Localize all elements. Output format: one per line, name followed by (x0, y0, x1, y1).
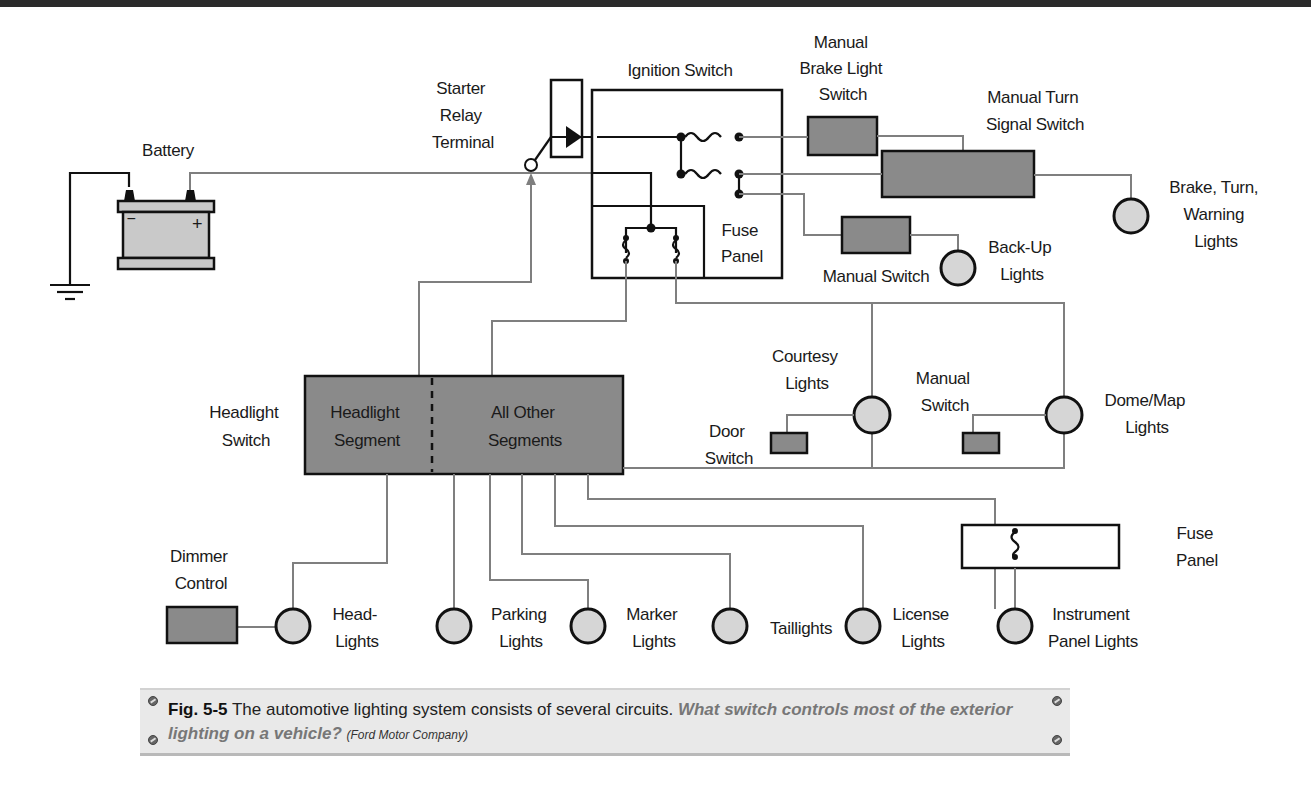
battery-ground (50, 173, 129, 299)
marker-lights-label: Marker Lights (626, 605, 682, 651)
battery-positive-terminal (185, 190, 196, 201)
parking-lights-label: Parking Lights (491, 605, 551, 651)
license-lamp (846, 609, 880, 643)
battery-positive-sign: + (192, 214, 202, 234)
arrow-icon (526, 173, 536, 185)
dome-manual-switch-label: Manual Switch (916, 369, 974, 415)
figure-caption: Fig. 5-5 The automotive lighting system … (140, 688, 1070, 756)
courtesy-lamp (854, 397, 890, 433)
battery-negative-sign: − (126, 210, 135, 227)
dome-map-lamp (1046, 397, 1082, 433)
turn-signal-switch (882, 151, 1034, 197)
backup-manual-switch-label: Manual Switch (823, 267, 930, 286)
figure-number: Fig. 5-5 (168, 700, 228, 719)
headlight-switch (305, 376, 623, 474)
head-lights-label: Head- Lights (332, 605, 381, 651)
instrument-panel-lights-label: Instrument Panel Lights (1048, 605, 1138, 651)
main-feed-wire (190, 173, 597, 190)
relay-terminal-circle (525, 159, 537, 171)
headlight-switch-label: Headlight Switch (209, 403, 283, 450)
turn-signal-switch-label: Manual Turn Signal Switch (986, 88, 1084, 134)
screw-icon (148, 735, 158, 745)
brake-light-switch (808, 117, 877, 155)
dome-map-lights-label: Dome/Map Lights (1104, 391, 1189, 437)
courtesy-lights-label: Courtesy Lights (772, 347, 842, 393)
marker-lights-wire (490, 474, 588, 609)
taillights-wire (522, 474, 730, 609)
dimmer-control-label: Dimmer Control (170, 547, 232, 593)
brake-turn-warning-label: Brake, Turn, Warning Lights (1169, 178, 1262, 251)
headlights-wire (293, 474, 387, 609)
battery-label: Battery (142, 141, 195, 160)
ignition-switch-label: Ignition Switch (627, 61, 732, 80)
license-lights-label: License Lights (893, 605, 954, 651)
starter-relay-label: Starter Relay Terminal (432, 79, 494, 152)
instrument-panel-wire (588, 474, 995, 609)
dome-manual-switch (963, 433, 999, 453)
starter-relay (525, 80, 597, 171)
caption-body: The automotive lighting system consists … (228, 700, 678, 719)
license-lights-wire (555, 474, 863, 609)
battery: − + (118, 190, 214, 269)
door-switch (771, 433, 807, 453)
screw-icon (1052, 735, 1062, 745)
marker-lamp (571, 609, 605, 643)
instrument-panel-lamp (998, 609, 1032, 643)
dimmer-control (167, 607, 237, 643)
door-switch-label: Door Switch (705, 422, 753, 468)
head-lamp (276, 609, 310, 643)
caption-credit: (Ford Motor Company) (347, 728, 468, 742)
backup-lights-label: Back-Up Lights (988, 238, 1056, 284)
backup-lamp (941, 251, 975, 285)
parking-lamp (437, 609, 471, 643)
backup-manual-switch (842, 217, 910, 253)
lighting-system-diagram: − + Battery Starter Relay Terminal Ignit… (0, 0, 1311, 680)
screw-icon (1052, 696, 1062, 706)
tail-lamp (713, 609, 747, 643)
screw-icon (148, 696, 158, 706)
taillights-label: Taillights (770, 619, 832, 638)
secondary-fuse-panel (962, 525, 1119, 568)
battery-negative-terminal (124, 190, 135, 201)
caption-text: Fig. 5-5 The automotive lighting system … (168, 698, 1048, 747)
headlight-to-relay-wire (419, 175, 531, 376)
brake-light-switch-label: Manual Brake Light Switch (799, 33, 886, 104)
brake-turn-warning-lamp (1114, 199, 1148, 233)
secondary-fuse-panel-label: Fuse Panel (1176, 524, 1218, 570)
